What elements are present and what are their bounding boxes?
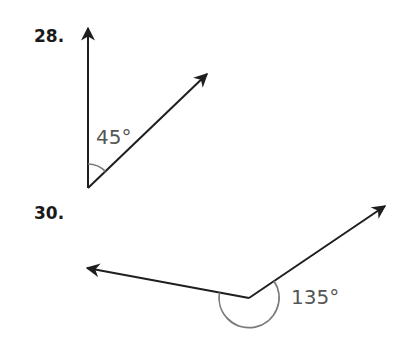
angle-figure-28: 45° [88,28,207,188]
angle-diagrams: 45° 135° [0,0,400,350]
ray-left-30 [87,268,249,298]
angle-figure-30: 135° [87,206,385,328]
angle-arc-28 [88,164,105,171]
angle-label-45: 45° [96,125,131,149]
angle-arc-30 [219,281,279,328]
angle-label-135: 135° [291,285,339,309]
